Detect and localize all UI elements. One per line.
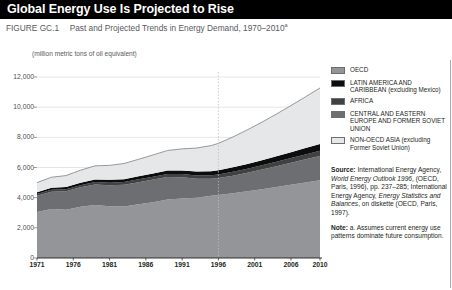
source-italic-1: World Energy Outlook 1996 [331, 175, 412, 182]
x-tick-label: 1996 [198, 261, 238, 268]
figure-caption-line: FIGURE GC.1 Past and Projected Trends in… [6, 22, 288, 33]
legend-swatch-icon [331, 80, 345, 87]
figure-number: FIGURE GC.1 [6, 23, 59, 33]
legend-swatch-icon [331, 98, 345, 105]
legend-item: OECD [331, 66, 449, 75]
source-note-block: Source: International Energy Agency, Wor… [331, 166, 450, 247]
y-tick-label: 10,000 [0, 103, 34, 110]
note-text: a. Assumes current energy use patterns d… [331, 224, 444, 240]
legend-item: NON-OECD ASIA (excluding Former Soviet U… [331, 136, 449, 151]
legend-label: OECD [350, 66, 449, 74]
legend-item: LATIN AMERICA AND CARIBBEAN (excluding M… [331, 79, 449, 94]
y-tick-label: 6,000 [0, 164, 34, 171]
legend-item: CENTRAL AND EASTERN EUROPE AND FORMER SO… [331, 110, 449, 133]
x-tick-label: 2001 [235, 261, 275, 268]
right-divider-rule [450, 60, 451, 288]
page-title: Global Energy Use Is Projected to Rise [7, 2, 234, 16]
legend-label: AFRICA [350, 97, 449, 105]
legend-label: LATIN AMERICA AND CARIBBEAN (excluding M… [350, 79, 449, 94]
y-tick-label: 12,000 [0, 73, 34, 80]
note-heading: Note: [331, 224, 348, 231]
x-tick-label: 1986 [126, 261, 166, 268]
axis-unit-label: (million metric tons of oil equivalent) [32, 50, 137, 57]
note-paragraph: Note: a. Assumes current energy use patt… [331, 224, 450, 241]
legend-swatch-icon [331, 111, 345, 118]
chart-legend: OECDLATIN AMERICA AND CARIBBEAN (excludi… [331, 66, 449, 155]
legend-label: NON-OECD ASIA (excluding Former Soviet U… [350, 136, 449, 151]
y-tick-label: 2,000 [0, 224, 34, 231]
figure-footnote-marker: a [285, 22, 288, 28]
figure-caption: Past and Projected Trends in Energy Dema… [70, 23, 285, 33]
x-tick-label: 1971 [17, 261, 57, 268]
title-divider [0, 19, 452, 20]
x-tick-label: 1976 [53, 261, 93, 268]
y-tick-label: 4,000 [0, 194, 34, 201]
x-tick-label: 2010 [300, 261, 340, 268]
legend-item: AFRICA [331, 97, 449, 106]
legend-label: CENTRAL AND EASTERN EUROPE AND FORMER SO… [350, 110, 449, 133]
source-text-1: International Energy Agency, [356, 166, 442, 173]
y-tick-label: 8,000 [0, 133, 34, 140]
x-tick-label: 1981 [90, 261, 130, 268]
legend-swatch-icon [331, 137, 345, 144]
legend-swatch-icon [331, 67, 345, 74]
y-tick-label: 0 [0, 254, 34, 261]
source-paragraph: Source: International Energy Agency, Wor… [331, 166, 450, 218]
title-bar: Global Energy Use Is Projected to Rise [0, 0, 452, 19]
source-heading: Source: [331, 166, 356, 173]
x-tick-label: 1991 [162, 261, 202, 268]
